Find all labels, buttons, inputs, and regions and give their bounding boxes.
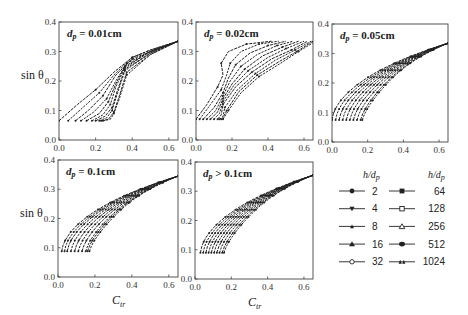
panel-title: dp = 0.1cm: [66, 165, 115, 179]
x-tick-label: 0.2: [226, 143, 237, 153]
data-curve: [200, 41, 279, 119]
x-tick-label: 0.4: [127, 143, 139, 153]
y-tick-label: 0.4: [318, 19, 330, 29]
y-tick-label: 0.3: [182, 47, 194, 57]
x-tick-label: 0.2: [362, 145, 373, 155]
legend-label: 64: [434, 186, 446, 197]
legend-label: 8: [372, 221, 378, 232]
plot-frame: [196, 22, 313, 140]
legend-label: 32: [372, 256, 384, 267]
x-tick-label: 0.4: [262, 143, 274, 153]
plot-frame: [58, 160, 178, 277]
x-tick-label: 0.6: [298, 143, 310, 153]
x-tick-label: 0.6: [298, 282, 310, 292]
y-tick-label: 0.3: [44, 184, 56, 194]
data-curve: [89, 176, 178, 251]
panel-title: dp = 0.05cm: [340, 29, 395, 43]
y-tick-label: 0.1: [44, 243, 55, 253]
legend-title: h/dp: [428, 169, 445, 182]
y-tick-label: 0.1: [182, 106, 193, 116]
plot-frame: [59, 22, 178, 140]
panel-5: 0.00.10.20.30.40.00.20.40.6dp > 0.1cmCtr: [181, 157, 314, 311]
panel-title: dp = 0.01cm: [67, 27, 122, 41]
legend-label: 16: [372, 239, 384, 250]
legend-item: 128: [389, 203, 445, 214]
legend-item: 1024: [389, 256, 445, 267]
y-tick-label: 0.2: [45, 76, 56, 86]
x-tick-label: 0.0: [190, 143, 202, 153]
x-axis-label: Ctr: [248, 295, 262, 311]
panel-2: 0.00.10.20.30.40.00.20.40.6dp = 0.02cm: [182, 17, 313, 153]
data-curve: [339, 43, 448, 120]
data-curve: [223, 43, 313, 120]
data-curve: [81, 41, 178, 121]
legend-item: 8: [339, 221, 378, 232]
legend-label: 1024: [423, 256, 446, 267]
legend-item: 64: [389, 186, 445, 197]
data-curve: [203, 175, 313, 253]
data-curve: [219, 41, 311, 119]
data-curve: [87, 41, 179, 121]
data-curve: [88, 176, 179, 251]
figure: 0.00.10.20.30.40.00.20.40.6dp = 0.01cmsi…: [0, 0, 468, 315]
data-curve: [67, 176, 178, 251]
legend-label: 2: [372, 186, 378, 197]
data-curve: [76, 41, 179, 121]
legend-label: 256: [428, 221, 445, 232]
panel-title: dp = 0.02cm: [204, 27, 259, 41]
y-tick-label: 0.3: [318, 49, 330, 59]
x-tick-label: 0.2: [226, 282, 237, 292]
data-curve: [65, 176, 179, 251]
legend-item: 2: [339, 186, 378, 197]
data-curve: [220, 175, 314, 253]
x-tick-label: 0.0: [326, 145, 338, 155]
x-tick-label: 0.4: [262, 282, 274, 292]
x-tick-label: 0.0: [53, 143, 65, 153]
data-curve: [336, 43, 448, 120]
panel-title: dp > 0.1cm: [203, 167, 252, 181]
x-tick-label: 0.6: [433, 145, 445, 155]
legend-title: h/dp: [363, 169, 380, 182]
panel-3: 0.00.10.20.30.40.00.20.40.6dp = 0.05cm: [318, 19, 449, 155]
legend-item: 16: [339, 239, 384, 250]
plot-frame: [195, 162, 313, 279]
y-tick-label: 0.1: [181, 245, 192, 255]
legend-item: 512: [389, 239, 445, 250]
y-tick-label: 0.2: [44, 214, 55, 224]
x-axis-label: Ctr: [112, 293, 126, 309]
y-tick-label: 0.2: [318, 78, 329, 88]
data-curve: [200, 175, 313, 253]
legend-item: 4: [339, 203, 378, 214]
y-tick-label: 0.1: [318, 108, 329, 118]
legend-label: 128: [428, 203, 445, 214]
data-curve: [59, 41, 178, 121]
y-tick-label: 0.4: [182, 17, 194, 27]
x-tick-label: 0.4: [126, 280, 138, 290]
x-tick-label: 0.2: [89, 280, 100, 290]
x-tick-label: 0.2: [90, 143, 101, 153]
panel-1: 0.00.10.20.30.40.00.20.40.6dp = 0.01cmsi…: [21, 17, 179, 153]
legend-label: 4: [372, 203, 378, 214]
legend: h/dph/dp2481632641282565121024: [339, 169, 445, 267]
data-curve: [361, 43, 448, 120]
data-curve: [68, 41, 178, 121]
x-tick-label: 0.0: [189, 282, 201, 292]
data-curve: [103, 41, 178, 121]
y-axis-label: sin θ: [21, 68, 44, 82]
data-curve: [203, 41, 286, 119]
y-axis-label: sin θ: [20, 206, 43, 220]
y-tick-label: 0.1: [45, 106, 56, 116]
x-tick-label: 0.6: [163, 143, 175, 153]
x-tick-label: 0.0: [52, 280, 64, 290]
y-tick-label: 0.2: [182, 76, 193, 86]
y-tick-label: 0.3: [181, 186, 193, 196]
data-curve: [332, 43, 448, 120]
legend-label: 512: [428, 239, 445, 250]
y-tick-label: 0.4: [181, 157, 193, 167]
x-tick-label: 0.6: [163, 280, 175, 290]
y-tick-label: 0.2: [181, 216, 192, 226]
data-curve: [96, 41, 178, 121]
x-tick-label: 0.4: [398, 145, 410, 155]
y-tick-label: 0.4: [44, 155, 56, 165]
legend-item: 32: [339, 256, 384, 267]
